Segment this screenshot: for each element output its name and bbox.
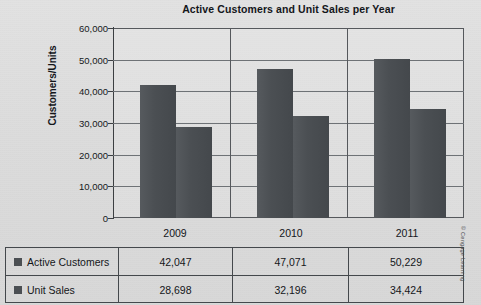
table-cell-active-customers-2011: 50,229 [349,248,463,275]
bar-active-customers-2010 [257,69,293,218]
bars-layer [113,28,464,218]
y-tick-label: 10,000 [60,181,108,192]
table-cell-unit-sales-2009: 28,698 [119,276,232,303]
data-table: 2009 2010 2011 Active Customers 42,047 4… [5,218,464,303]
legend-label-active-customers: Active Customers [27,256,109,268]
table-row-label-unit-sales: Unit Sales [6,276,118,303]
bar-active-customers-2011 [374,59,410,218]
table-cell-active-customers-2009: 42,047 [119,248,232,275]
bar-unit-sales-2011 [410,109,446,218]
category-separator [347,28,348,218]
table-cell-unit-sales-2010: 32,196 [233,276,348,303]
y-axis-tick-labels: 60,000 50,000 40,000 30,000 20,000 10,00… [55,28,108,218]
table-cell-active-customers-2010: 47,071 [233,248,348,275]
copyright-credit: © Cengage Learning [460,226,466,281]
table-header-2009: 2009 [118,218,232,247]
legend-swatch-active-customers [14,258,22,266]
bar-active-customers-2009 [140,85,176,218]
category-separator [230,28,231,218]
chart-figure: Active Customers and Unit Sales per Year… [0,0,481,305]
table-header-2011: 2011 [350,218,464,247]
y-tick-label: 60,000 [60,23,108,34]
chart-title: Active Customers and Unit Sales per Year [113,3,464,15]
bar-unit-sales-2009 [176,127,212,218]
y-tick-label: 40,000 [60,86,108,97]
legend-swatch-unit-sales [14,286,22,294]
legend-label-unit-sales: Unit Sales [27,284,75,296]
table-row-label-active-customers: Active Customers [6,248,118,275]
y-tick-label: 30,000 [60,118,108,129]
table-cell-unit-sales-2011: 34,424 [349,276,463,303]
table-header-2010: 2010 [234,218,348,247]
bar-unit-sales-2010 [293,116,329,218]
y-tick-label: 50,000 [60,54,108,65]
y-tick-label: 20,000 [60,149,108,160]
